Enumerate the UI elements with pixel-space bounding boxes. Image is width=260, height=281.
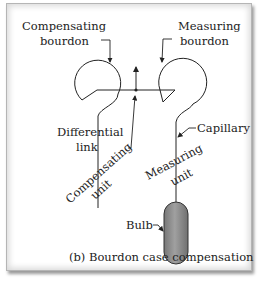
differential-link: [134, 67, 137, 92]
measuring-bourdon-label-2: bourdon: [180, 34, 229, 48]
bulb-leader: [153, 225, 163, 231]
compensating-bourdon-leader: [101, 40, 110, 62]
compensating-bourdon-label-1: Compensating: [22, 19, 107, 33]
capillary-label: Capillary: [197, 121, 250, 135]
figure-caption: (b) Bourdon case compensation: [69, 250, 254, 264]
measuring-bourdon-label-1: Measuring: [178, 19, 241, 33]
differential-link-leader: [128, 96, 135, 148]
measuring-bourdon-leader: [162, 39, 172, 62]
bulb-label: Bulb: [126, 218, 153, 232]
differential-link-label-2: link: [76, 140, 99, 154]
bourdon-case-compensation-diagram: Compensating bourdon Measuring bourdon D…: [0, 0, 260, 281]
differential-link-label-1: Differential: [57, 125, 124, 139]
capillary-leader: [178, 128, 196, 137]
compensating-bourdon-label-2: bourdon: [40, 34, 89, 48]
